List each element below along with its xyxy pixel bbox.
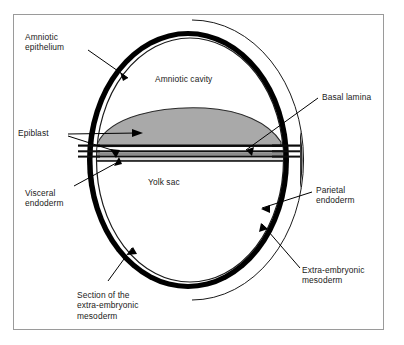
diagram-canvas: Amniotic cavity Yolk sac Amniotic epithe… xyxy=(0,0,404,345)
callout-amniotic-epithelium: Amniotic epithelium xyxy=(25,32,64,53)
callout-parietal-endoderm: Parietal endoderm xyxy=(316,185,355,206)
callout-extra-embryonic-mesoderm: Extra-embryonic mesoderm xyxy=(302,265,364,286)
label-amniotic-cavity: Amniotic cavity xyxy=(155,74,212,84)
label-yolk-sac: Yolk sac xyxy=(148,177,180,187)
callout-visceral-endoderm: Visceral endoderm xyxy=(25,188,64,209)
callout-section-of-extra-embryonic-mesoderm: Section of the extra-embryonic mesoderm xyxy=(77,290,139,321)
callout-epiblast: Epiblast xyxy=(18,128,49,138)
callout-basal-lamina: Basal lamina xyxy=(322,92,371,102)
